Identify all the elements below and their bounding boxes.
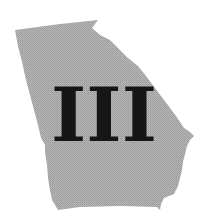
state-map-figure: III	[0, 0, 202, 215]
roman-numeral-label: III	[51, 80, 157, 150]
